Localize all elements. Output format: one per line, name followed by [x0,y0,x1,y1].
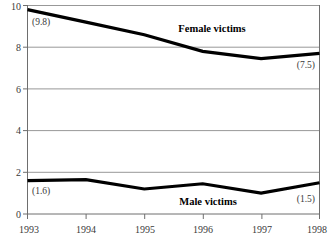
x-tick-label-1995: 1995 [135,224,155,235]
annotation-male-end-value: (1.5) [297,194,315,205]
y-tick-label-2: 2 [16,167,21,178]
y-tick-labels-group: 10 8 6 4 2 0 [11,1,21,220]
annotation-female-start-value: (9.8) [32,17,50,28]
y-tick-label-10: 10 [11,1,21,12]
x-tick-labels-group: 1993 1994 1995 1996 1997 1998 [19,224,327,235]
y-tick-label-8: 8 [16,42,21,53]
plot-area-background [27,5,320,214]
y-tick-label-0: 0 [16,209,21,220]
x-tick-marks-group [28,214,320,219]
chart-canvas: 10 8 6 4 2 0 1993 1994 1995 1996 1997 19… [0,0,334,241]
series-label-male-victims: Male victims [179,196,236,207]
annotation-female-end-value: (7.5) [297,60,315,71]
x-tick-label-1997: 1997 [252,224,272,235]
series-label-female-victims: Female victims [178,23,245,34]
x-tick-label-1996: 1996 [193,224,213,235]
annotation-male-start-value: (1.6) [32,186,50,197]
line-chart-figure: 10 8 6 4 2 0 1993 1994 1995 1996 1997 19… [0,0,334,241]
y-tick-marks-group [23,6,27,215]
x-tick-label-1994: 1994 [76,224,96,235]
x-tick-label-1993: 1993 [19,224,39,235]
x-tick-label-1998: 1998 [307,224,327,235]
y-tick-label-6: 6 [16,84,21,95]
y-tick-label-4: 4 [16,125,21,136]
